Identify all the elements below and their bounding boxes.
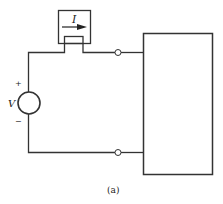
- ammeter-terminal: [65, 37, 84, 44]
- wire-top-right: [83, 43, 115, 53]
- terminal-top: [115, 50, 121, 56]
- voltage-source: [18, 92, 40, 114]
- wire-top-left: [29, 43, 65, 92]
- terminal-bottom: [115, 150, 121, 156]
- plus-sign: +: [15, 79, 22, 88]
- voltage-label: V: [8, 98, 17, 109]
- circuit-diagram: I + V − (a): [0, 0, 223, 204]
- wire-bottom-left: [29, 114, 116, 153]
- current-label: I: [71, 13, 77, 26]
- caption: (a): [107, 185, 119, 195]
- load-box: [144, 34, 213, 175]
- minus-sign: −: [15, 117, 22, 126]
